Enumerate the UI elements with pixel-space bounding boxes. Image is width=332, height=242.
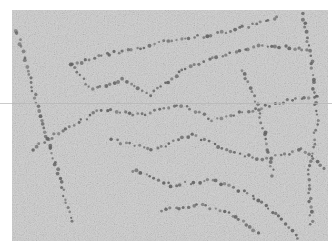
nucleosome-bead [157, 179, 160, 182]
nucleosome-bead [269, 165, 272, 168]
nucleosome-bead [163, 107, 166, 110]
nucleosome-bead [261, 127, 264, 130]
nucleosome-bead [75, 61, 79, 65]
nucleosome-bead [37, 104, 41, 108]
nucleosome-bead [258, 116, 260, 118]
nucleosome-bead [143, 47, 146, 50]
nucleosome-bead [260, 158, 264, 162]
nucleosome-bead [53, 162, 57, 166]
nucleosome-bead [234, 215, 238, 219]
nucleosome-bead [215, 207, 217, 209]
nucleosome-bead [186, 135, 190, 139]
nucleosome-bead [251, 228, 255, 232]
nucleosome-bead [243, 189, 246, 192]
nucleosome-bead [116, 80, 120, 84]
nucleosome-bead [216, 117, 218, 119]
nucleosome-bead [294, 97, 297, 100]
nucleosome-bead [108, 83, 111, 86]
nucleosome-bead [141, 89, 144, 92]
nucleosome-bead [241, 25, 244, 28]
nucleosome-bead [60, 180, 64, 184]
nucleosome-bead [307, 192, 310, 195]
nucleosome-bead [156, 87, 159, 90]
nucleosome-bead [259, 20, 262, 23]
nucleosome-bead [118, 52, 121, 55]
nucleosome-bead [196, 34, 199, 37]
nucleosome-bead [291, 150, 294, 153]
nucleosome-bead [130, 83, 133, 86]
nucleosome-bead [37, 142, 40, 145]
nucleosome-bead [198, 111, 201, 114]
nucleosome-bead [128, 111, 132, 115]
nucleosome-bead [308, 49, 312, 53]
nucleosome-bead [182, 206, 185, 209]
nucleosome-bead [312, 74, 314, 76]
nucleosome-bead [317, 123, 319, 125]
nucleosome-bead [269, 157, 272, 160]
nucleosome-bead [284, 44, 287, 47]
nucleosome-bead [308, 164, 311, 167]
nucleosome-bead [25, 65, 29, 69]
nucleosome-bead [33, 97, 36, 100]
nucleosome-bead [166, 39, 170, 43]
nucleosome-bead [264, 104, 267, 107]
nucleosome-bead [95, 109, 98, 112]
nucleosome-bead [260, 200, 263, 203]
nucleosome-bead [307, 173, 309, 175]
nucleosome-bead [63, 188, 65, 190]
nucleosome-bead [168, 206, 171, 209]
nucleosome-bead [233, 28, 237, 32]
nucleosome-bead [225, 115, 227, 117]
nucleosome-bead [263, 132, 267, 136]
nucleosome-bead [27, 73, 30, 76]
nucleosome-bead [42, 127, 45, 130]
nucleosome-bead [247, 153, 251, 157]
nucleosome-bead [191, 133, 194, 136]
nucleosome-bead [89, 114, 92, 117]
nucleosome-bead [37, 109, 41, 113]
nucleosome-bead [257, 231, 260, 234]
nucleosome-bead [241, 111, 243, 113]
nucleosome-bead [248, 225, 252, 229]
nucleosome-bead [27, 70, 30, 73]
nucleosome-bead [178, 183, 182, 187]
nucleosome-bead [152, 90, 155, 93]
nucleosome-bead [104, 84, 108, 88]
nucleosome-bead [266, 19, 269, 22]
nucleosome-bead [100, 55, 102, 57]
nucleosome-bead [184, 68, 187, 71]
nucleosome-bead [222, 55, 224, 57]
nucleosome-bead [125, 141, 128, 144]
nucleosome-bead [287, 46, 291, 50]
nucleosome-bead [156, 146, 159, 149]
nucleosome-bead [291, 99, 294, 102]
nucleosome-bead [204, 204, 207, 207]
nucleosome-bead [256, 199, 260, 203]
nucleosome-bead [86, 118, 88, 120]
nucleosome-bead [251, 110, 254, 113]
nucleosome-bead [280, 217, 283, 220]
nucleosome-bead [310, 54, 313, 57]
nucleosome-bead [220, 30, 224, 34]
nucleosome-bead [293, 48, 297, 52]
nucleosome-bead [131, 170, 134, 173]
nucleosome-bead [184, 181, 186, 183]
nucleosome-bead [120, 77, 124, 81]
nucleosome-bead [31, 148, 34, 151]
nucleosome-bead [80, 61, 84, 65]
nucleosome-bead [309, 197, 313, 201]
nucleosome-bead [195, 134, 198, 137]
nucleosome-bead [170, 40, 173, 43]
nucleosome-bead [303, 25, 306, 28]
nucleosome-bead [214, 143, 216, 145]
nucleosome-bead [153, 43, 156, 46]
nucleosome-bead [165, 145, 167, 147]
nucleosome-bead [308, 187, 312, 191]
nucleosome-bead [238, 49, 242, 53]
nucleosome-bead [52, 132, 55, 135]
nucleosome-bead [287, 226, 290, 229]
nucleosome-bead [22, 49, 26, 53]
nucleosome-bead [208, 207, 211, 210]
nucleosome-bead [203, 138, 206, 141]
nucleosome-bead [168, 142, 171, 145]
